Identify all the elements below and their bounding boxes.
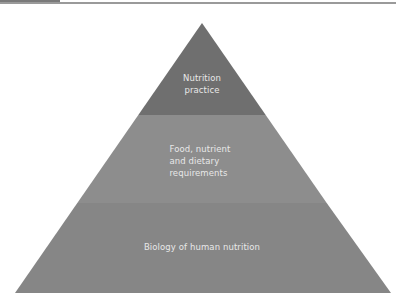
tier-top-shape xyxy=(138,23,265,115)
tier-middle-label: Food, nutrient and dietary requirements xyxy=(169,143,230,179)
tier-bottom-label: Biology of human nutrition xyxy=(144,241,260,253)
tier-top-label: Nutrition practice xyxy=(183,72,221,96)
